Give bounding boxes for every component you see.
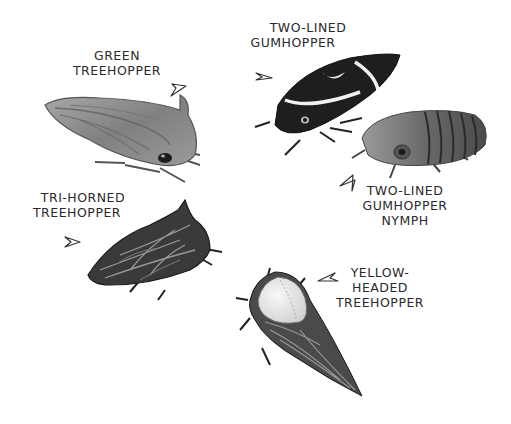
arrow-two-lined-gumhopper (256, 73, 272, 80)
arrow-green-treehopper (171, 84, 186, 96)
label-green-treehopper: GREEN TREEHOPPER (62, 48, 172, 78)
two-lined-gumhopper-nymph-drawing (352, 111, 486, 178)
insect-illustration: GREEN TREEHOPPER TWO-LINED GUMHOPPER TWO… (0, 0, 511, 424)
label-two-lined-gumhopper-nymph: TWO-LINED GUMHOPPER NYMPH (350, 183, 460, 228)
label-yellow-headed-treehopper: YELLOW- HEADED TREEHOPPER (330, 265, 430, 310)
green-treehopper-drawing (45, 95, 200, 182)
label-tri-horned-treehopper: TRI-HORNED TREEHOPPER (22, 190, 132, 220)
arrow-tri-horned (65, 237, 80, 247)
label-two-lined-gumhopper: TWO-LINED GUMHOPPER (228, 20, 358, 50)
